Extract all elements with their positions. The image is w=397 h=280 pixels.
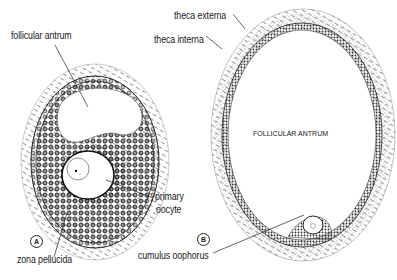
panel-a-follicle bbox=[21, 64, 169, 260]
label-theca-interna: theca interna bbox=[154, 35, 204, 45]
panel-tag-b: B bbox=[197, 233, 210, 246]
label-theca-externa: theca externa bbox=[174, 11, 226, 21]
label-follicular-antrum-a: follicular antrum bbox=[11, 31, 72, 41]
label-cumulus-oophorus: cumulus oophorus bbox=[138, 251, 209, 261]
panel-tag-a: A bbox=[30, 235, 43, 248]
label-zona-pellucida: zona pellucida bbox=[17, 255, 72, 265]
label-follicular-antrum-b: FOLLICULAR ANTRUM bbox=[253, 130, 328, 138]
label-primary-oocyte-line2: oocyte bbox=[156, 205, 181, 215]
follicle-diagram: follicular antrum primary oocyte zona pe… bbox=[0, 0, 397, 280]
label-primary-oocyte-line1: primary bbox=[155, 192, 184, 202]
